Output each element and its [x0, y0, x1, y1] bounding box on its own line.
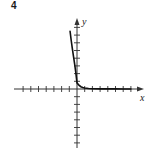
y-axis-label: y — [81, 16, 87, 27]
exponential-curve — [70, 31, 131, 89]
x-axis-label: x — [139, 92, 145, 103]
x-axis-arrow-icon — [137, 87, 144, 92]
coordinate-plane: x y — [0, 0, 150, 157]
axes — [14, 18, 144, 148]
y-axis-arrow-icon — [75, 18, 80, 25]
